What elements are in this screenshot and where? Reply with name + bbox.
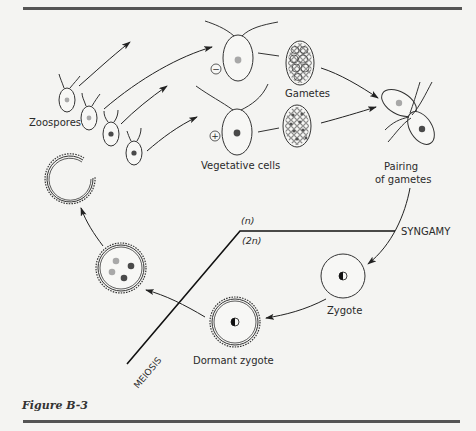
nucleus-light-icon	[65, 98, 70, 103]
nucleus-light-icon	[235, 57, 242, 64]
zoospore-cell	[81, 93, 100, 130]
arrow-zoospore-1	[79, 42, 130, 86]
dormant-zygote-label: Dormant zygote	[193, 355, 274, 366]
arrow-zoospore-2	[104, 47, 212, 109]
nucleus-dark-icon	[419, 126, 425, 132]
nucleus-dark-icon	[131, 150, 136, 155]
nucleus-dark-icon	[108, 131, 113, 136]
nucleus-light-icon	[113, 258, 120, 265]
arrow-gametes-plus-to-pairing	[321, 107, 376, 123]
haploid-label: (n)	[241, 215, 254, 226]
vegetative-cell-plus: +	[196, 84, 268, 155]
nucleus-dark-icon	[234, 130, 241, 137]
nucleus-dark-icon	[121, 275, 128, 282]
gametes-cluster-minus	[286, 41, 314, 85]
nucleus-dark-icon	[128, 263, 135, 270]
plus-sign: +	[211, 131, 219, 141]
released-cell-wall	[45, 154, 95, 204]
connector-line	[258, 53, 279, 56]
connector-line	[258, 128, 279, 132]
top-rule	[23, 7, 462, 10]
bottom-rule	[23, 420, 460, 423]
arrow-zygote-to-dormant	[266, 299, 326, 318]
nucleus-light-icon	[109, 269, 116, 276]
zoospore-cell	[126, 128, 142, 165]
meiosis-label: MEIOSIS	[132, 355, 164, 390]
diploid-label: (2n)	[242, 235, 261, 246]
gametes-label: Gametes	[285, 88, 330, 99]
zoospore-cell	[59, 74, 80, 112]
arrow-zoospore-3	[121, 86, 167, 124]
vegetative-cell-minus: −	[205, 21, 278, 81]
pairing-label-line2: of gametes	[375, 174, 431, 185]
meiosis-cell	[96, 243, 146, 293]
gametes-cluster-plus	[283, 105, 311, 147]
chlamydomonas-life-cycle-diagram: Zoospores − + Vegetative cells Game	[0, 0, 476, 431]
zoospore-cell	[103, 110, 119, 146]
vegetative-cells-label: Vegetative cells	[201, 160, 280, 171]
nucleus-light-icon	[396, 100, 402, 106]
dormant-zygote-cell	[210, 297, 260, 347]
figure-caption: Figure B-3	[21, 399, 88, 412]
arrow-dormant-to-meiosis	[146, 290, 205, 317]
minus-sign: −	[212, 64, 220, 74]
pairing-label-line1: Pairing	[384, 161, 418, 172]
zygote-label: Zygote	[327, 305, 362, 316]
pairing-of-gametes	[377, 82, 440, 149]
arrow-zoospore-4	[147, 117, 197, 151]
zoospores-label: Zoospores	[29, 117, 81, 128]
nucleus-light-icon	[87, 116, 92, 121]
syngamy-label: SYNGAMY	[401, 226, 451, 237]
arrow-meiosis-to-release	[81, 208, 103, 246]
zygote-cell	[321, 254, 365, 298]
